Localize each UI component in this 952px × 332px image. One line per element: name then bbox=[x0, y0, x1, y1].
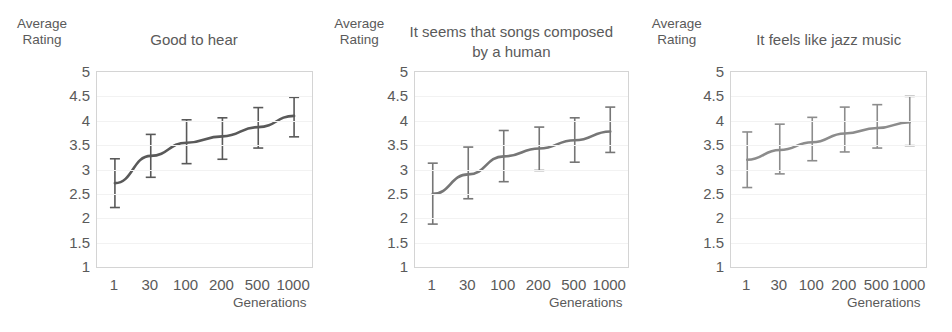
gridline bbox=[731, 96, 926, 97]
gridline bbox=[731, 170, 926, 171]
x-tick-label: 500 bbox=[561, 276, 586, 294]
y-tick-label: 2.5 bbox=[387, 185, 408, 200]
series-line bbox=[433, 131, 611, 193]
gridline bbox=[97, 145, 312, 146]
x-tick-label: 500 bbox=[864, 276, 889, 294]
x-tick-labels: 1301002005001000 bbox=[414, 276, 627, 294]
y-axis-title: Average Rating bbox=[325, 16, 393, 47]
x-tick-label: 30 bbox=[459, 276, 476, 294]
y-tick-label: 1 bbox=[400, 259, 408, 274]
y-tick-label: 2 bbox=[716, 210, 724, 225]
error-bar bbox=[807, 117, 817, 160]
y-tick-label: 1.5 bbox=[387, 234, 408, 249]
gridline bbox=[415, 243, 628, 244]
gridline bbox=[415, 170, 628, 171]
chart-title-line: Good to hear bbox=[78, 30, 310, 50]
chart-panel-songs-composed-by-a-human: Average Rating It seems that songs compo… bbox=[317, 0, 634, 332]
y-tick-label: 2.5 bbox=[703, 185, 724, 200]
y-tick-label: 5 bbox=[400, 64, 408, 79]
plot-area bbox=[730, 71, 927, 268]
chart-panel-good-to-hear: Average Rating Good to hear 11.522.533.5… bbox=[0, 0, 317, 332]
x-tick-label: 200 bbox=[526, 276, 551, 294]
x-tick-label: 1 bbox=[110, 276, 118, 294]
gridline bbox=[97, 267, 312, 268]
x-tick-label: 1 bbox=[742, 276, 750, 294]
x-tick-label: 500 bbox=[245, 276, 270, 294]
y-tick-labels: 11.522.533.544.55 bbox=[364, 71, 408, 266]
y-tick-label: 5 bbox=[82, 64, 90, 79]
y-tick-label: 3.5 bbox=[703, 137, 724, 152]
y-tick-labels: 11.522.533.544.55 bbox=[680, 71, 724, 266]
y-tick-label: 3 bbox=[82, 161, 90, 176]
gridline bbox=[415, 96, 628, 97]
x-tick-label: 1000 bbox=[276, 276, 309, 294]
gridline bbox=[415, 267, 628, 268]
x-tick-label: 1000 bbox=[892, 276, 925, 294]
gridline bbox=[731, 218, 926, 219]
chart-title: Good to hear bbox=[78, 30, 310, 50]
x-tick-label: 200 bbox=[209, 276, 234, 294]
y-tick-label: 3 bbox=[400, 161, 408, 176]
y-tick-label: 3 bbox=[716, 161, 724, 176]
y-tick-label: 4 bbox=[82, 112, 90, 127]
gridline bbox=[97, 194, 312, 195]
chart-title: It feels like jazz music bbox=[713, 30, 945, 50]
gridline bbox=[731, 243, 926, 244]
y-tick-label: 4 bbox=[716, 112, 724, 127]
multi-panel-line-chart-figure: Average Rating Good to hear 11.522.533.5… bbox=[0, 0, 952, 332]
error-bar bbox=[872, 105, 882, 148]
series-line bbox=[747, 122, 910, 160]
y-tick-label: 1.5 bbox=[69, 234, 90, 249]
x-axis-title: Generations bbox=[847, 295, 921, 311]
y-tick-label: 2 bbox=[400, 210, 408, 225]
chart-title-line: It feels like jazz music bbox=[713, 30, 945, 50]
gridline bbox=[97, 218, 312, 219]
x-tick-labels: 1301002005001000 bbox=[96, 276, 311, 294]
chart-title: It seems that songs composed by a human bbox=[395, 22, 627, 62]
y-tick-label: 1.5 bbox=[703, 234, 724, 249]
x-tick-labels: 1301002005001000 bbox=[730, 276, 925, 294]
x-tick-label: 1 bbox=[428, 276, 436, 294]
y-tick-label: 2 bbox=[82, 210, 90, 225]
gridline bbox=[415, 145, 628, 146]
y-axis-title: Average Rating bbox=[8, 16, 76, 47]
gridline bbox=[415, 218, 628, 219]
gridline bbox=[731, 267, 926, 268]
x-tick-label: 100 bbox=[173, 276, 198, 294]
y-tick-label: 1 bbox=[716, 259, 724, 274]
gridline bbox=[731, 121, 926, 122]
chart-title-line: by a human bbox=[395, 42, 627, 62]
plot-area bbox=[414, 71, 629, 268]
chart-title-line: It seems that songs composed bbox=[395, 22, 627, 42]
gridline bbox=[415, 194, 628, 195]
x-axis-title: Generations bbox=[549, 295, 623, 311]
y-tick-label: 2.5 bbox=[69, 185, 90, 200]
y-tick-label: 4.5 bbox=[69, 88, 90, 103]
gridline bbox=[97, 121, 312, 122]
gridline bbox=[97, 96, 312, 97]
gridline bbox=[731, 194, 926, 195]
x-tick-label: 1000 bbox=[593, 276, 626, 294]
y-axis-title: Average Rating bbox=[643, 16, 711, 47]
gridline bbox=[97, 170, 312, 171]
y-tick-label: 4.5 bbox=[703, 88, 724, 103]
plot-area bbox=[96, 71, 313, 268]
x-axis-title: Generations bbox=[233, 295, 307, 311]
chart-panel-it-feels-like-jazz-music: Average Rating It feels like jazz music … bbox=[635, 0, 952, 332]
y-tick-label: 4.5 bbox=[387, 88, 408, 103]
y-tick-label: 3.5 bbox=[69, 137, 90, 152]
y-tick-label: 5 bbox=[716, 64, 724, 79]
y-tick-labels: 11.522.533.544.55 bbox=[46, 71, 90, 266]
x-tick-label: 30 bbox=[141, 276, 158, 294]
x-tick-label: 100 bbox=[799, 276, 824, 294]
x-tick-label: 100 bbox=[490, 276, 515, 294]
series-line bbox=[115, 116, 294, 183]
y-tick-label: 4 bbox=[400, 112, 408, 127]
x-tick-label: 30 bbox=[770, 276, 787, 294]
gridline bbox=[731, 145, 926, 146]
y-tick-label: 3.5 bbox=[387, 137, 408, 152]
error-bar bbox=[217, 118, 227, 159]
gridline bbox=[97, 243, 312, 244]
x-tick-label: 200 bbox=[831, 276, 856, 294]
y-tick-label: 1 bbox=[82, 259, 90, 274]
